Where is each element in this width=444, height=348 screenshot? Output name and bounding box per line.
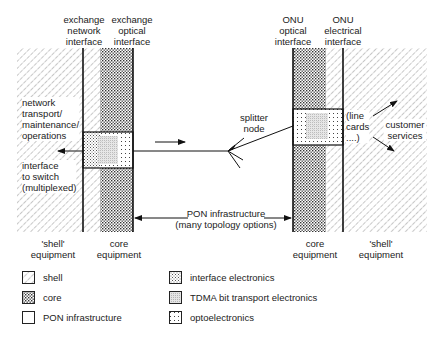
text: interface <box>110 36 154 47</box>
text: network <box>62 25 106 36</box>
line-cards-label: (line cards ....) <box>346 110 369 143</box>
text: node <box>234 123 274 134</box>
left-core-equipment-label: core equipment <box>94 238 144 260</box>
text: (line <box>346 110 369 121</box>
legend-label: PON infrastructure <box>43 312 122 323</box>
legend-label: TDMA bit transport electronics <box>190 292 317 303</box>
legend-label: optoelectronics <box>190 312 254 323</box>
legend-item-shell: shell <box>22 271 63 284</box>
text: services <box>384 130 426 141</box>
text: electrical <box>320 25 366 36</box>
text: equipment <box>28 249 78 260</box>
opto-swatch-icon <box>169 311 182 324</box>
interface-to-switch-label: interface to switch (multiplexed) <box>22 160 76 193</box>
text: interface <box>320 36 366 47</box>
text: 'shell' <box>356 238 406 249</box>
text: ONU <box>320 14 366 25</box>
text: operations <box>22 130 79 141</box>
splitter-node-icon <box>228 138 244 168</box>
text: exchange <box>110 14 154 25</box>
legend-item-pon: PON infrastructure <box>22 311 122 324</box>
legend-item-opto: optoelectronics <box>169 311 254 324</box>
network-operations-label: network transport/ maintenance/ operatio… <box>22 97 79 141</box>
text: transport/ <box>22 108 79 119</box>
right-shell-equipment-label: 'shell' equipment <box>356 238 406 260</box>
left-shell-equipment-label: 'shell' equipment <box>28 238 78 260</box>
text: equipment <box>356 249 406 260</box>
text: PON infrastructure <box>160 208 292 219</box>
onu-electrical-interface-label: ONU electrical interface <box>320 14 366 47</box>
exchange-network-interface-label: exchange network interface <box>62 14 106 47</box>
legend-label: core <box>43 292 61 303</box>
tdma-swatch-icon <box>169 291 182 304</box>
core-swatch-icon <box>22 291 35 304</box>
text: to switch <box>22 171 76 182</box>
text: interface <box>270 36 316 47</box>
text: network <box>22 97 79 108</box>
text: optical <box>110 25 154 36</box>
text: maintenance/ <box>22 119 79 130</box>
legend-item-core: core <box>22 291 61 304</box>
text: (multiplexed) <box>22 182 76 193</box>
interface-swatch-icon <box>169 271 182 284</box>
legend-item-interface: interface electronics <box>169 271 274 284</box>
exchange-optical-interface-label: exchange optical interface <box>110 14 154 47</box>
text: equipment <box>94 249 144 260</box>
text: customer <box>384 119 426 130</box>
text: core <box>290 238 340 249</box>
text: cards <box>346 121 369 132</box>
legend-item-tdma: TDMA bit transport electronics <box>169 291 317 304</box>
text: optical <box>270 25 316 36</box>
text: ....) <box>346 132 369 143</box>
pon-swatch-icon <box>22 311 35 324</box>
onu-optical-interface-label: ONU optical interface <box>270 14 316 47</box>
left-interface-box <box>83 132 133 168</box>
splitter-node-label: splitter node <box>234 112 274 134</box>
right-interface-box <box>293 109 343 145</box>
shell-swatch-icon <box>22 271 35 284</box>
text: core <box>94 238 144 249</box>
text: 'shell' <box>28 238 78 249</box>
legend-label: shell <box>43 272 63 283</box>
text: interface <box>62 36 106 47</box>
text: splitter <box>234 112 274 123</box>
text: (many topology options) <box>160 219 292 230</box>
text: equipment <box>290 249 340 260</box>
legend-label: interface electronics <box>190 272 274 283</box>
customer-services-label: customer services <box>384 119 426 141</box>
right-core-equipment-label: core equipment <box>290 238 340 260</box>
pon-infrastructure-label: PON infrastructure (many topology option… <box>160 208 292 230</box>
text: exchange <box>62 14 106 25</box>
text: interface <box>22 160 76 171</box>
text: ONU <box>270 14 316 25</box>
